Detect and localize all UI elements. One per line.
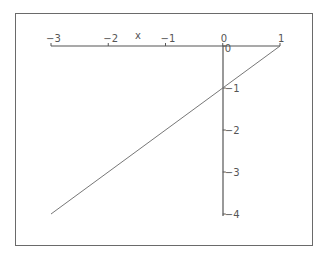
y-tick-label: −4 <box>225 209 240 220</box>
plot-canvas: −3−2−101 0−1−2−3−4 x <box>0 0 331 260</box>
y-tick-label: −3 <box>225 167 240 178</box>
data-line <box>51 46 280 214</box>
x-tick-label: −3 <box>46 33 61 44</box>
y-axis-ticks: 0−1−2−3−4 <box>223 43 240 220</box>
x-tick-label: −2 <box>103 33 118 44</box>
x-axis-ticks: −3−2−101 <box>46 33 284 46</box>
x-tick-label: 1 <box>278 33 284 44</box>
x-axis-label: x <box>135 30 141 41</box>
x-tick-label: −1 <box>161 33 176 44</box>
y-tick-label: 0 <box>225 43 231 54</box>
y-tick-label: −2 <box>225 125 240 136</box>
